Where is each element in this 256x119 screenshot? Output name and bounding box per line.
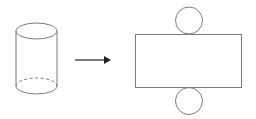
cylinder [16,23,57,94]
net-rectangle [136,35,242,88]
diagram-svg [0,0,256,119]
net-bottom-circle [176,88,203,115]
cylinder-bottom-hidden-arc [16,78,57,86]
cylinder-bottom-front-arc [16,86,57,94]
cylinder-top-ellipse [16,23,57,39]
diagram-canvas: Cylinder and its net (unfolded surface) [0,0,256,119]
cylinder-net [136,7,242,115]
arrow-icon [75,56,111,64]
arrow-head [104,56,111,64]
net-top-circle [176,7,203,34]
